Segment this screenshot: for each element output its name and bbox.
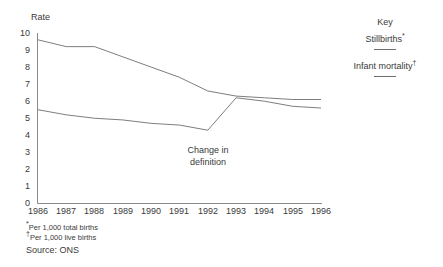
legend-item-infant-mortality-label: Infant mortality bbox=[354, 61, 413, 71]
annotation-line-1: Change in bbox=[161, 144, 255, 156]
legend-item-infant-mortality-marker: † bbox=[413, 59, 417, 66]
legend-item-infant-mortality: Infant mortality† bbox=[330, 56, 440, 73]
legend-item-stillbirths-label: Stillbirths bbox=[365, 34, 402, 44]
chart-figure: Rate 10 9 8 7 6 5 4 3 2 1 0 1986 1987 19… bbox=[0, 0, 443, 267]
x-tick-label-1988: 1988 bbox=[80, 207, 108, 216]
x-tick-label-1996: 1996 bbox=[307, 207, 335, 216]
x-tick-label-1995: 1995 bbox=[279, 207, 307, 216]
footnote-infant-mortality-text: Per 1,000 live births bbox=[30, 233, 96, 242]
legend-swatch-stillbirths bbox=[374, 49, 396, 50]
legend-swatch-infant-mortality bbox=[374, 76, 396, 77]
x-tick-label-1986: 1986 bbox=[24, 207, 52, 216]
x-tick-label-1987: 1987 bbox=[52, 207, 80, 216]
series-line-stillbirths bbox=[38, 40, 321, 100]
legend-item-stillbirths: Stillbirths* bbox=[330, 29, 440, 46]
x-tick-label-1994: 1994 bbox=[250, 207, 278, 216]
legend-title: Key bbox=[330, 16, 440, 29]
chart-legend: Key Stillbirths* Infant mortality† bbox=[330, 16, 440, 83]
x-tick-label-1990: 1990 bbox=[137, 207, 165, 216]
x-tick-label-1989: 1989 bbox=[109, 207, 137, 216]
x-tick-label-1993: 1993 bbox=[222, 207, 250, 216]
annotation-line-2: definition bbox=[161, 156, 255, 168]
annotation-change-in-definition: Change in definition bbox=[161, 144, 255, 168]
series-line-infant-mortality bbox=[38, 98, 321, 130]
footnote-infant-mortality: †Per 1,000 live births bbox=[26, 229, 96, 243]
x-tick-label-1991: 1991 bbox=[165, 207, 193, 216]
source-label: Source: ONS bbox=[26, 245, 79, 255]
legend-item-stillbirths-marker: * bbox=[402, 32, 405, 39]
x-tick-label-1992: 1992 bbox=[194, 207, 222, 216]
